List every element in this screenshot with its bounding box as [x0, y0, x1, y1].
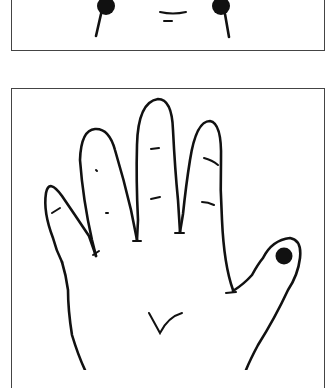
middle-finger-crease-1 — [151, 148, 159, 149]
index-finger-outline — [180, 121, 233, 290]
nose-line — [160, 12, 186, 14]
index-finger-crease-2 — [202, 202, 214, 205]
palm-left-contour — [62, 262, 85, 370]
right-point-marker — [212, 0, 230, 15]
middle-finger-outline — [137, 99, 180, 240]
middle-finger-crease-2 — [151, 197, 160, 199]
pinky-crease — [52, 208, 60, 213]
face-drawing — [96, 0, 230, 37]
right-face-contour — [225, 14, 229, 37]
left-face-contour — [96, 14, 101, 36]
thumb-base-mark — [226, 292, 236, 293]
thumb-tip-point-marker — [276, 248, 293, 265]
index-finger-crease-1 — [204, 158, 218, 165]
left-point-marker — [97, 0, 115, 15]
ring-finger-dot — [96, 170, 97, 171]
hand-drawing — [45, 99, 300, 370]
palm-crease — [149, 313, 182, 333]
